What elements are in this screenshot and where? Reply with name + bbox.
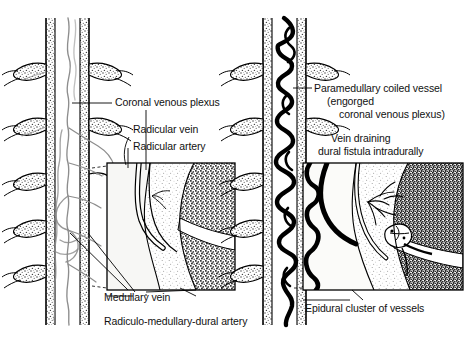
panel-left-labels: Coronal venous plexus Radicular vein Rad… (0, 0, 235, 347)
label-epidural-cluster-of-vessels: Epidural cluster of vessels (305, 302, 424, 315)
label-radicular-vein: Radicular vein (133, 123, 198, 136)
label-vein-draining-dural-fistula-line2: dural fistula intradurally (318, 145, 423, 158)
label-radiculo-medullary-dural-artery: Radiculo-medullary-dural artery (104, 315, 247, 328)
label-paramedullary-coiled-vessel-line2: (engorged (327, 95, 374, 108)
panel-right-labels: Paramedullary coiled vessel (engorged co… (235, 0, 470, 347)
label-medullary-vein: Medullary vein (104, 291, 170, 304)
label-paramedullary-coiled-vessel-line3: coronal venous plexus) (339, 108, 445, 121)
label-vein-draining-dural-fistula-line1: Vein draining (331, 132, 390, 145)
label-radicular-artery: Radicular artery (133, 140, 206, 153)
label-coronal-venous-plexus: Coronal venous plexus (115, 96, 220, 109)
label-paramedullary-coiled-vessel-line1: Paramedullary coiled vessel (314, 82, 442, 95)
